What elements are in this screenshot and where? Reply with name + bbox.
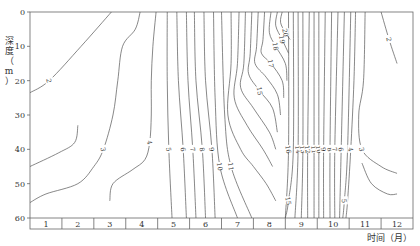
contour-line-4 bbox=[110, 12, 156, 201]
month-label: 3 bbox=[107, 220, 112, 229]
y-tick-label: 50 bbox=[15, 180, 25, 189]
month-label: 10 bbox=[328, 220, 338, 229]
contour-line-14 bbox=[240, 12, 275, 149]
month-label: 4 bbox=[139, 220, 144, 229]
month-band: 123456789101112 bbox=[43, 218, 402, 229]
y-axis-ticks: 0102030405060 bbox=[15, 8, 30, 223]
month-label: 9 bbox=[299, 220, 304, 229]
contour-line-10 bbox=[214, 12, 238, 218]
y-tick-label: 30 bbox=[15, 111, 25, 120]
contour-line-13 bbox=[234, 12, 273, 167]
month-label: 11 bbox=[360, 220, 370, 229]
contour-line-8 bbox=[194, 12, 205, 218]
contour-label: 10 bbox=[215, 162, 224, 172]
month-label: 5 bbox=[171, 220, 176, 229]
y-axis-label: 深度（m） bbox=[2, 36, 16, 86]
month-label: 12 bbox=[392, 220, 402, 229]
contour-label: 15 bbox=[255, 86, 264, 96]
y-tick-label: 40 bbox=[15, 145, 25, 154]
contour-line-11 bbox=[222, 12, 252, 218]
plot-frame bbox=[30, 12, 413, 229]
contour-line-2 bbox=[30, 125, 78, 166]
contour-line-15 bbox=[248, 12, 277, 132]
month-label: 6 bbox=[203, 220, 208, 229]
contour-label: 20 bbox=[280, 28, 289, 38]
contour-line-4 bbox=[346, 12, 356, 218]
isotherm-contours bbox=[30, 12, 397, 218]
contour-line-6 bbox=[340, 12, 345, 218]
contour-line-9 bbox=[204, 12, 215, 218]
contour-label: 15 bbox=[283, 196, 292, 206]
contour-line-2 bbox=[362, 163, 397, 195]
contour-line-9 bbox=[324, 12, 326, 218]
contour-line-5 bbox=[167, 12, 172, 218]
contour-line-12 bbox=[308, 12, 310, 218]
y-tick-label: 10 bbox=[15, 42, 25, 51]
contour-line-17 bbox=[261, 12, 284, 98]
contour-chart: 0102030405060 123456789101112 2345678910… bbox=[0, 0, 420, 246]
contour-line-7 bbox=[335, 12, 338, 218]
month-label: 2 bbox=[75, 220, 80, 229]
contour-line-13 bbox=[301, 12, 303, 218]
contour-line-14 bbox=[295, 12, 298, 218]
y-tick-label: 60 bbox=[15, 214, 25, 223]
month-label: 7 bbox=[235, 220, 240, 229]
contour-line-2 bbox=[30, 12, 111, 93]
contour-label: 16 bbox=[283, 145, 292, 155]
x-axis-label: 时间（月） bbox=[367, 231, 412, 244]
contour-label: 11 bbox=[226, 162, 235, 172]
y-tick-label: 0 bbox=[20, 8, 25, 17]
contour-line-6 bbox=[177, 12, 187, 218]
month-label: 8 bbox=[267, 220, 272, 229]
y-tick-label: 20 bbox=[15, 77, 25, 86]
contour-label: 17 bbox=[266, 59, 275, 69]
contour-line-8 bbox=[330, 12, 332, 218]
month-label: 1 bbox=[43, 220, 48, 229]
contour-line-3 bbox=[30, 12, 140, 203]
contour-line-12 bbox=[228, 12, 276, 201]
